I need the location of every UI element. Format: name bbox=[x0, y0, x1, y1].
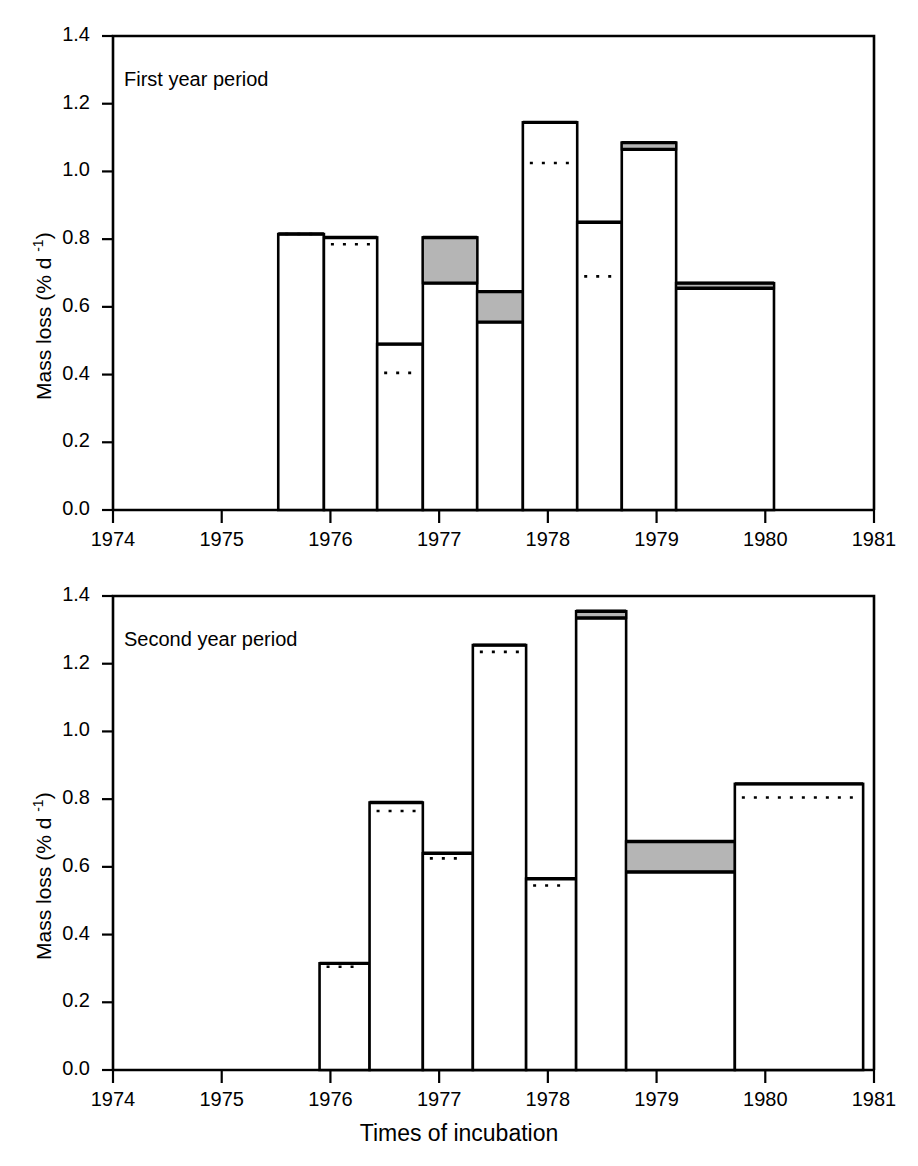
bar bbox=[676, 283, 774, 510]
bar-series bbox=[278, 122, 774, 510]
y-tick-label: 1.2 bbox=[38, 651, 90, 674]
bar-series bbox=[320, 611, 864, 1070]
bar bbox=[526, 879, 576, 1070]
plot-area-first-year bbox=[0, 0, 918, 560]
bar bbox=[523, 122, 577, 510]
x-tick-label: 1978 bbox=[513, 1088, 583, 1111]
y-tick-label: 0.4 bbox=[38, 922, 90, 945]
x-axis-title: Times of incubation bbox=[0, 1120, 918, 1147]
y-tick-label: 1.0 bbox=[38, 718, 90, 741]
y-tick-label: 1.2 bbox=[38, 91, 90, 114]
bar-shaded-segment bbox=[626, 841, 735, 871]
y-tick-label: 0.4 bbox=[38, 362, 90, 385]
chart-panel-second-year: Mass loss (% d -1) Second year period bbox=[0, 560, 918, 1120]
x-tick-label: 1976 bbox=[295, 528, 365, 551]
bar bbox=[370, 803, 423, 1070]
x-tick-label: 1974 bbox=[78, 1088, 148, 1111]
y-tick-label: 1.0 bbox=[38, 158, 90, 181]
x-tick-label: 1976 bbox=[295, 1088, 365, 1111]
y-tick-label: 0.6 bbox=[38, 854, 90, 877]
bar bbox=[320, 963, 370, 1070]
bar bbox=[423, 853, 473, 1070]
bar bbox=[576, 611, 626, 1070]
y-tick-label: 0.2 bbox=[38, 989, 90, 1012]
x-tick-label: 1979 bbox=[622, 1088, 692, 1111]
x-tick-label: 1979 bbox=[622, 528, 692, 551]
bar bbox=[377, 344, 423, 510]
x-tick-label: 1981 bbox=[839, 1088, 909, 1111]
x-tick-label: 1980 bbox=[730, 1088, 800, 1111]
y-tick-label: 1.4 bbox=[38, 23, 90, 46]
x-tick-label: 1978 bbox=[513, 528, 583, 551]
chart-panel-first-year: Mass loss (% d -1) First year period bbox=[0, 0, 918, 560]
y-tick-label: 0.6 bbox=[38, 294, 90, 317]
y-tick-label: 0.2 bbox=[38, 429, 90, 452]
x-tick-label: 1975 bbox=[187, 528, 257, 551]
bar bbox=[473, 645, 526, 1070]
bar-shaded-segment bbox=[423, 237, 477, 283]
bar bbox=[324, 237, 377, 510]
bar bbox=[735, 784, 863, 1070]
y-tick-label: 0.0 bbox=[38, 1057, 90, 1080]
x-tick-label: 1977 bbox=[404, 528, 474, 551]
x-tick-label: 1974 bbox=[78, 528, 148, 551]
y-tick-label: 0.8 bbox=[38, 786, 90, 809]
bar bbox=[477, 292, 523, 510]
x-tick-label: 1981 bbox=[839, 528, 909, 551]
bar bbox=[577, 222, 622, 510]
x-tick-label: 1975 bbox=[187, 1088, 257, 1111]
bar bbox=[622, 143, 676, 510]
bar bbox=[278, 234, 324, 510]
x-tick-label: 1977 bbox=[404, 1088, 474, 1111]
plot-area-second-year bbox=[0, 560, 918, 1120]
y-tick-label: 0.8 bbox=[38, 226, 90, 249]
y-tick-label: 1.4 bbox=[38, 583, 90, 606]
x-tick-label: 1980 bbox=[730, 528, 800, 551]
bar-shaded-segment bbox=[477, 292, 523, 322]
y-tick-label: 0.0 bbox=[38, 497, 90, 520]
bar bbox=[626, 841, 735, 1070]
figure-root: Mass loss (% d -1) First year period Mas… bbox=[0, 0, 918, 1166]
